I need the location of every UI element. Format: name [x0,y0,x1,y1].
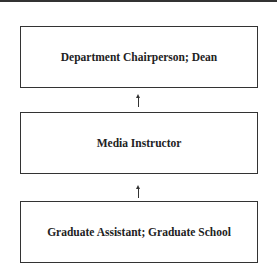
box-graduate-assistant: Graduate Assistant; Graduate School [20,201,258,263]
box-label: Department Chairperson; Dean [61,51,218,63]
box-media-instructor: Media Instructor [20,112,258,174]
arrow-up-icon [137,94,140,107]
arrow-up-icon [137,185,140,198]
box-department-chairperson: Department Chairperson; Dean [20,26,258,88]
box-label: Graduate Assistant; Graduate School [47,226,231,238]
top-rule [0,0,277,2]
box-label: Media Instructor [97,137,182,149]
